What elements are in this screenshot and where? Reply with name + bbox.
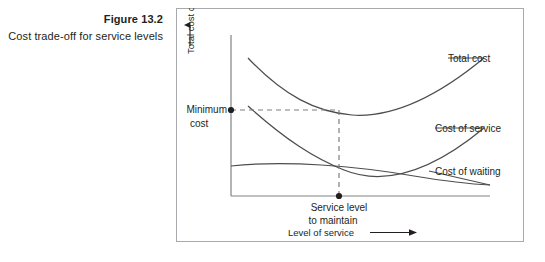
minimum-cost-label-line2: cost [190, 118, 209, 129]
minimum-cost-label-line1: Minimum [186, 104, 227, 115]
label-total-cost: Total cost [448, 53, 490, 64]
figure-number: Figure 13.2 [0, 12, 163, 26]
guides-group [228, 107, 342, 199]
y-axis-label: Total cost of the service facility [185, 8, 196, 54]
x-axis-label-group: Level of service [288, 227, 416, 238]
service-level-label-line1: Service level [311, 202, 368, 213]
chart-canvas: Total cost of the service facility [176, 8, 524, 242]
y-axis-label-group: Total cost of the service facility [185, 8, 196, 54]
curve-total-cost [248, 58, 484, 115]
service-level-label-line2: to maintain [309, 215, 358, 226]
label-cost-of-service: Cost of service [435, 123, 502, 134]
annotation-minimum-cost: Minimum cost [186, 104, 227, 129]
figure-caption: Figure 13.2 Cost trade-off for service l… [0, 12, 163, 44]
annotation-service-level: Service level to maintain [309, 202, 368, 226]
figure-title: Cost trade-off for service levels [0, 29, 163, 44]
x-axis-label: Level of service [288, 227, 354, 238]
service-level-dot [336, 193, 342, 199]
figure-page: Figure 13.2 Cost trade-off for service l… [0, 0, 545, 262]
minimum-cost-dot [228, 107, 234, 113]
label-cost-of-waiting: Cost of waiting [435, 166, 501, 177]
